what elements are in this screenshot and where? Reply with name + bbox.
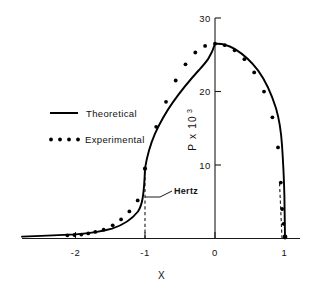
data-point (119, 218, 123, 222)
scientific-plot: 30 20 10 -2 -1 0 1 X P x 10 3 (0, 0, 313, 286)
theoretical-curve (22, 44, 285, 238)
legend-entry-experimental[interactable]: Experimental (49, 134, 145, 145)
y-axis-ticks (215, 18, 221, 165)
data-point (79, 233, 83, 237)
data-point (203, 44, 207, 48)
x-tick-label-minus1: -1 (140, 247, 150, 258)
data-point (283, 235, 288, 240)
data-point (102, 228, 106, 232)
data-point (127, 210, 131, 214)
legend-dot (67, 138, 71, 142)
data-point (282, 222, 286, 226)
hertz-leader-line (145, 191, 172, 197)
legend-label-experimental: Experimental (85, 134, 145, 145)
legend-dots-marker (49, 138, 80, 142)
legend-dot (58, 138, 62, 142)
data-point (276, 146, 280, 150)
data-point (66, 233, 70, 237)
data-point (154, 125, 158, 129)
data-point (164, 100, 168, 104)
legend: Theoretical Experimental (49, 108, 145, 146)
data-point (252, 71, 256, 75)
y-tick-label-30: 30 (199, 13, 211, 24)
data-point (174, 79, 178, 83)
data-point (136, 199, 140, 203)
legend-label-theoretical: Theoretical (86, 108, 137, 119)
data-point (243, 57, 247, 61)
hertz-annotation: Hertz (145, 186, 198, 198)
axes-group (22, 18, 300, 239)
x-tick-label-minus2: -2 (71, 247, 81, 258)
data-point (271, 115, 275, 119)
data-point (184, 62, 188, 66)
x-axis-title: X (158, 270, 166, 281)
data-point (233, 48, 237, 52)
y-axis-title-exponent: 3 (186, 109, 193, 113)
y-tick-label-20: 20 (199, 86, 211, 97)
data-point (73, 233, 77, 237)
data-point (111, 223, 115, 227)
data-point (93, 230, 97, 234)
data-point (86, 232, 90, 236)
legend-dot (49, 138, 53, 142)
data-point (262, 90, 266, 94)
x-axis-ticks (76, 232, 285, 239)
data-point (213, 42, 217, 46)
x-axis-tick-labels: -2 -1 0 1 (71, 247, 288, 258)
x-tick-label-zero: 0 (212, 247, 218, 258)
x-tick-label-one: 1 (282, 247, 288, 258)
legend-dot (76, 138, 80, 142)
figure-container: 30 20 10 -2 -1 0 1 X P x 10 3 (0, 0, 313, 286)
data-point (280, 207, 284, 211)
legend-entry-theoretical[interactable]: Theoretical (50, 108, 137, 119)
y-axis-title: P x 10 (187, 115, 198, 150)
y-tick-label-10: 10 (199, 160, 211, 171)
data-point (143, 167, 147, 171)
hertz-label: Hertz (174, 186, 198, 196)
y-axis-title-group: P x 10 3 (186, 109, 199, 151)
y-axis-tick-labels: 30 20 10 (199, 13, 211, 171)
data-point (279, 181, 283, 185)
data-point (193, 51, 197, 55)
data-point (223, 43, 227, 47)
